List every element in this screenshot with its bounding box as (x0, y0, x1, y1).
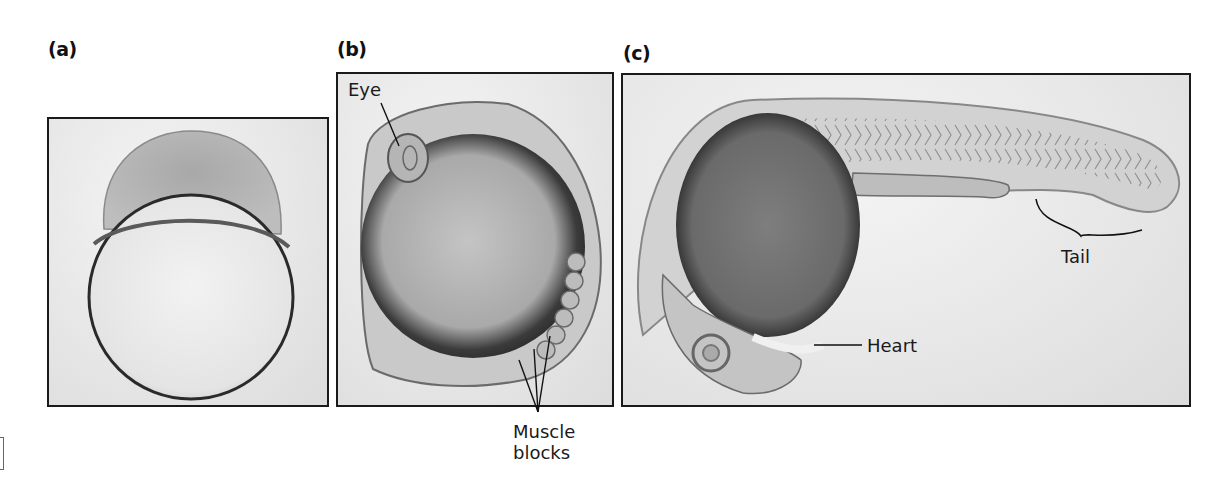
label-eye: Eye (348, 79, 381, 100)
panel-label-c: (c) (623, 42, 650, 64)
label-tail: Tail (1061, 246, 1090, 267)
embryo-b-illustration (338, 74, 614, 407)
label-muscle-blocks: Muscle blocks (513, 421, 575, 463)
panel-a-image (47, 117, 329, 407)
edge-bracket-mark (0, 437, 4, 470)
label-heart: Heart (867, 335, 917, 356)
label-muscle-blocks-line2: blocks (513, 442, 575, 463)
embryo-a-illustration (49, 119, 329, 407)
panel-label-a: (a) (48, 38, 77, 60)
panel-label-b: (b) (337, 38, 366, 60)
panel-c-image (621, 73, 1191, 407)
embryo-c-illustration (623, 75, 1191, 407)
label-muscle-blocks-line1: Muscle (513, 421, 575, 442)
panel-b-image (336, 72, 614, 407)
